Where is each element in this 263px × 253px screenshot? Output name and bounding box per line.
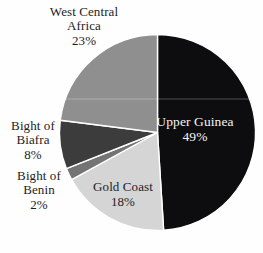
label-bight-of-biafra-pct: 8%	[11, 148, 55, 162]
label-bight-of-biafra-line1: Bight of	[11, 119, 55, 133]
label-bight-of-benin-line2: Benin	[17, 183, 61, 197]
label-gold-coast-pct: 18%	[93, 194, 153, 209]
label-upper-guinea: Upper Guinea 49%	[156, 114, 233, 144]
label-west-central-africa: West Central Africa 23%	[50, 5, 118, 48]
label-gold-coast-line1: Gold Coast	[93, 179, 153, 194]
label-west-central-africa-line2: Africa	[50, 19, 118, 33]
label-west-central-africa-line1: West Central	[50, 5, 118, 19]
label-upper-guinea-line1: Upper Guinea	[156, 114, 233, 129]
label-bight-of-benin: Bight of Benin 2%	[17, 169, 61, 212]
label-bight-of-biafra: Bight of Biafra 8%	[11, 119, 55, 162]
label-gold-coast: Gold Coast 18%	[93, 179, 153, 209]
label-bight-of-benin-pct: 2%	[17, 198, 61, 212]
label-west-central-africa-pct: 23%	[50, 34, 118, 48]
label-bight-of-benin-line1: Bight of	[17, 169, 61, 183]
label-bight-of-biafra-line2: Biafra	[11, 133, 55, 147]
pie-slice-west-central-africa	[60, 34, 157, 132]
label-upper-guinea-pct: 49%	[156, 129, 233, 144]
pie-chart-figure: West Central Africa 23% Upper Guinea 49%…	[0, 0, 263, 253]
